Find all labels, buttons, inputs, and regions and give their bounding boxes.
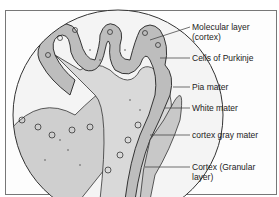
label-white-mater: White mater	[192, 103, 238, 113]
label-text: Cells of Purkinje	[192, 53, 253, 63]
label-granular-layer: Cortex (Granular layer)	[192, 162, 255, 182]
label-text: (cortex)	[192, 32, 250, 42]
label-cortex-gray-mater: cortex gray mater	[192, 130, 258, 140]
label-pia-mater: Pia mater	[192, 82, 228, 92]
label-purkinje-cells: Cells of Purkinje	[192, 53, 253, 63]
label-molecular-layer: Molecular layer (cortex)	[192, 22, 250, 42]
label-text: Molecular layer	[192, 22, 250, 32]
label-text: layer)	[192, 172, 255, 182]
label-text: cortex gray mater	[192, 130, 258, 140]
label-text: White mater	[192, 103, 238, 113]
label-text: Cortex (Granular	[192, 162, 255, 172]
label-text: Pia mater	[192, 82, 228, 92]
